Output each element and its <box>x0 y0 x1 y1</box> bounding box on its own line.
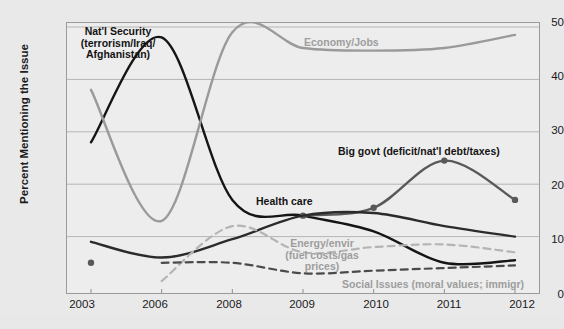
x-tick-2012: 2012 <box>492 298 552 310</box>
series-label-economy-jobs: Economy/Jobs <box>304 37 379 49</box>
x-tick-2006: 2006 <box>125 298 185 310</box>
series-label-energy-envir: Energy/envir (fuel costs/gas prices) <box>270 238 374 273</box>
natl-security-line3: Afghanistan) <box>66 49 170 61</box>
y-axis-title: Percent Mentioning the Issue <box>18 4 30 244</box>
series-label-big-govt: Big govt (deficit/nat'l debt/taxes) <box>338 146 500 158</box>
series-marker <box>88 260 94 266</box>
series-marker <box>441 157 447 163</box>
x-tick-2003: 2003 <box>52 298 112 310</box>
natl-security-line1: Nat'l Security <box>66 26 170 38</box>
chart-panel: Percent Mentioning the Issue 50 40 30 20… <box>0 0 564 315</box>
series-line <box>303 161 515 216</box>
series-label-natl-security: Nat'l Security (terrorism/Iraq/ Afghanis… <box>66 26 170 61</box>
energy-line3: prices) <box>270 261 374 273</box>
series-label-health-care: Health care <box>256 196 313 208</box>
series-marker <box>370 205 376 211</box>
energy-line1: Energy/envir <box>270 238 374 250</box>
x-tick-2009: 2009 <box>272 298 332 310</box>
series-label-social-issues: Social Issues (moral values; immigr) <box>342 279 524 291</box>
x-tick-2011: 2011 <box>419 298 479 310</box>
x-tick-2008: 2008 <box>199 298 259 310</box>
series-marker <box>512 197 518 203</box>
x-tick-2010: 2010 <box>346 298 406 310</box>
chart-figure: Percent Mentioning the Issue 50 40 30 20… <box>0 0 564 329</box>
